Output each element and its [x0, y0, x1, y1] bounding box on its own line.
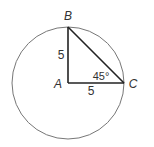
geometry-diagram: B A C 5 5 45° [0, 0, 154, 147]
label-point-a: A [53, 77, 62, 91]
label-point-b: B [64, 9, 72, 23]
label-point-c: C [129, 77, 138, 91]
label-angle-c: 45° [93, 70, 110, 82]
label-side-ac: 5 [88, 84, 95, 98]
label-side-ab: 5 [58, 48, 65, 62]
